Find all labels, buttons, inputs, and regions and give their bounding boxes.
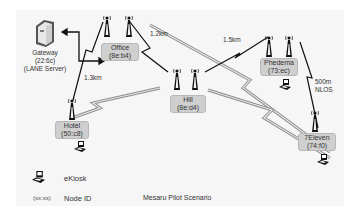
antenna-tower-icon [125,15,133,41]
node-name: 7Eleven [300,134,334,142]
antenna-tower-icon [191,68,199,94]
node-id: (8e:b4) [103,52,137,60]
legend-ekiosk-label: eKiosk [64,174,87,183]
node-id: (73:ec) [262,67,296,75]
link-label-office-hill: 1.2km [150,30,168,38]
ekiosk-icon [317,152,329,170]
node-name: Office [103,44,137,52]
ekiosk-icon [74,139,86,157]
antenna-tower-icon [173,68,181,94]
link-label-office-hotel: 1.3km [84,74,102,82]
node-office[interactable]: Office (8e:b4) [101,43,139,61]
node-phedema[interactable]: Phedema (73:ec) [260,58,298,76]
link-label-hill-phedema: 1.5km [223,36,241,44]
node-hotel[interactable]: Hotel (50:c8) [55,121,89,139]
server-icon [32,18,58,52]
node-7eleven[interactable]: 7Eleven (74:f0) [298,133,336,151]
node-id: (50:c8) [57,130,87,138]
gateway-id: (22:6c) [20,57,70,65]
ekiosk-icon [279,77,291,95]
distance: 500m [315,78,333,86]
gateway-label: Gateway (22:6c) (LANE Server) [20,49,70,73]
node-name: Hotel [57,122,87,130]
legend-ekiosk-icon [32,170,45,188]
gateway-role: (LANE Server) [20,65,70,73]
node-name: Hill [172,96,204,104]
los-type: NLOS [315,86,333,94]
legend-node-id-symbol: (xx:xx) [33,195,51,201]
node-id: (74:f0) [300,142,334,150]
node-hill[interactable]: Hill (8e:d4) [170,95,206,113]
legend-node-id-label: Node ID [64,194,92,203]
node-name: Phedema [262,59,296,67]
antenna-tower-icon [103,15,111,41]
node-id: (8e:d4) [172,104,204,112]
diagram-title: Mesaru Pilot Scenario [143,194,211,201]
gateway-name: Gateway [20,49,70,57]
link-label-phedema-7eleven: 500m NLOS [315,78,333,94]
